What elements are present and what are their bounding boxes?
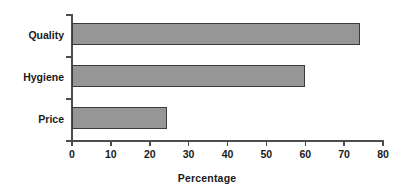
x-axis-tick-10 — [110, 141, 112, 146]
x-axis-tick-label-40: 40 — [213, 148, 243, 160]
bar-quality — [72, 23, 360, 45]
x-axis-tick-label-80: 80 — [368, 148, 398, 160]
plot-area — [72, 14, 383, 140]
x-axis-tick-label-70: 70 — [329, 148, 359, 160]
x-axis-tick-60 — [305, 141, 307, 146]
x-axis-tick-label-10: 10 — [96, 148, 126, 160]
x-axis-tick-50 — [266, 141, 268, 146]
x-axis-tick-40 — [227, 141, 229, 146]
bar-price — [72, 107, 167, 129]
y-axis-label-hygiene: Hygiene — [0, 56, 64, 98]
x-axis-tick-label-60: 60 — [290, 148, 320, 160]
x-axis-tick-30 — [188, 141, 190, 146]
x-axis-tick-70 — [343, 141, 345, 146]
bar-hygiene — [72, 65, 305, 87]
x-axis-tick-80 — [382, 141, 384, 146]
bar-chart: Quality Hygiene Price 01020304050607080 … — [0, 0, 414, 195]
x-axis-tick-label-0: 0 — [57, 148, 87, 160]
x-axis-tick-0 — [71, 141, 73, 146]
x-axis-tick-label-20: 20 — [135, 148, 165, 160]
x-axis-tick-20 — [149, 141, 151, 146]
x-axis-title: Percentage — [0, 172, 414, 184]
y-axis-category-labels: Quality Hygiene Price — [0, 14, 66, 140]
x-axis-tick-label-30: 30 — [174, 148, 204, 160]
y-axis-label-quality: Quality — [0, 14, 64, 56]
x-axis-tick-label-50: 50 — [251, 148, 281, 160]
y-axis-label-price: Price — [0, 98, 64, 140]
